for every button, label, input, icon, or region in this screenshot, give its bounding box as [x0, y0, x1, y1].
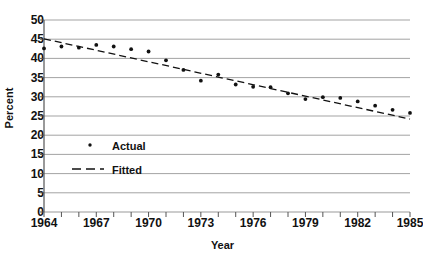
data-point — [147, 50, 151, 54]
data-point — [269, 85, 273, 89]
x-tick-label: 1985 — [397, 216, 423, 230]
data-point — [286, 91, 290, 95]
data-point — [356, 100, 360, 104]
legend-marker-actual — [88, 143, 91, 146]
data-point — [408, 111, 412, 115]
legend-label-fitted: Fitted — [112, 164, 142, 176]
x-tick-label: 1976 — [240, 216, 267, 230]
data-point — [60, 45, 64, 49]
x-axis-title: Year — [0, 239, 421, 251]
data-point — [338, 96, 342, 100]
data-point — [373, 104, 377, 108]
data-point — [164, 58, 168, 62]
data-point — [216, 73, 220, 77]
data-point — [42, 47, 46, 51]
data-point — [251, 85, 255, 89]
legend-label-actual: Actual — [112, 140, 146, 152]
data-point — [234, 83, 238, 87]
data-point — [182, 68, 186, 72]
fitted-line — [44, 39, 410, 119]
data-point — [321, 95, 325, 99]
x-tick-label: 1979 — [292, 216, 319, 230]
x-tick-label: 1970 — [135, 216, 162, 230]
data-point — [112, 45, 116, 49]
x-tick-label: 1964 — [31, 216, 58, 230]
data-point — [391, 108, 395, 112]
data-point — [129, 47, 133, 51]
data-point — [94, 43, 98, 47]
x-tick-label: 1967 — [83, 216, 110, 230]
data-point — [77, 46, 81, 50]
data-point — [199, 79, 203, 83]
x-tick-label: 1973 — [187, 216, 214, 230]
data-point — [304, 97, 308, 101]
x-tick-label: 1982 — [344, 216, 371, 230]
